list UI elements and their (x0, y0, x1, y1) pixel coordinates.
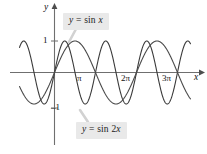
leader-line-sin-2x (80, 110, 88, 122)
x-axis-arrow-icon (199, 70, 205, 76)
callout-sin-x-operator: = sin (73, 15, 98, 25)
y-axis-label: y (44, 3, 48, 13)
x-tick-label-3pi: 3π (162, 74, 171, 83)
callout-sin-2x-rhs: x (116, 124, 120, 134)
y-tick-label-negative-one: –1 (51, 103, 60, 112)
leader-line-sin-x (69, 29, 76, 42)
sine-graph-figure: y x 1 –1 π 2π 3π y = sin x y = sin 2x (0, 0, 207, 154)
callout-sin-x: y = sin x (63, 13, 109, 30)
callout-sin-2x-operator: = sin 2 (86, 124, 116, 134)
x-tick-label-2pi: 2π (121, 74, 130, 83)
callout-sin-2x: y = sin 2x (76, 122, 127, 139)
x-axis-label: x (194, 73, 198, 83)
callout-sin-x-rhs: x (98, 15, 102, 25)
y-axis-arrow-icon (52, 3, 58, 9)
y-tick-label-one: 1 (43, 36, 48, 45)
x-axis (10, 70, 205, 76)
x-tick-label-pi: π (77, 74, 82, 83)
